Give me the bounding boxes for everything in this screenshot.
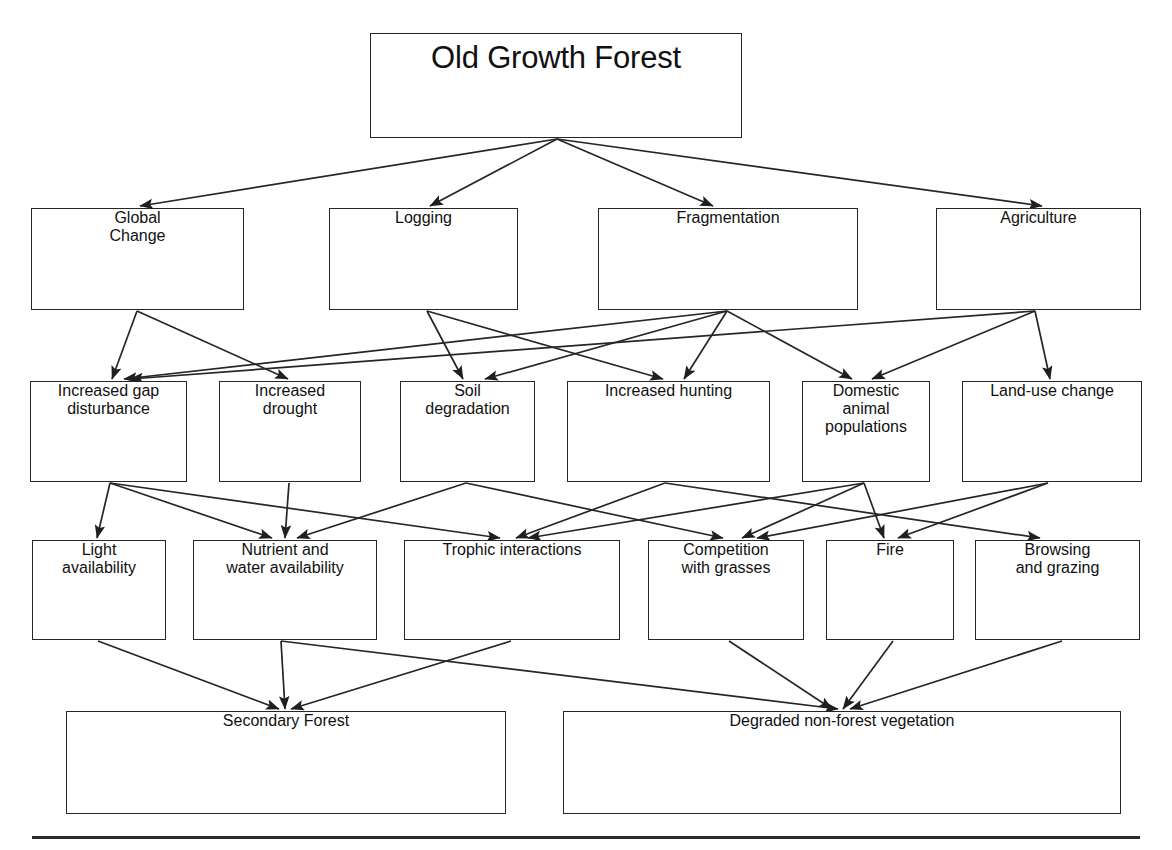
node-label-increased-drought: Increased drought [220, 382, 360, 418]
node-label-secondary-forest: Secondary Forest [67, 712, 505, 730]
node-label-increased-hunting: Increased hunting [568, 382, 769, 400]
edge-increased-drought-to-nutrient-water-availability [285, 483, 289, 538]
node-label-nutrient-water-availability: Nutrient and water availability [194, 541, 376, 577]
edge-global-change-to-increased-gap-disturbance [112, 311, 137, 379]
node-secondary-forest[interactable]: Secondary Forest [66, 711, 506, 814]
edge-old-growth-forest-to-logging [430, 139, 557, 206]
edge-fragmentation-to-soil-degradation [485, 311, 727, 379]
node-label-light-availability: Light availability [33, 541, 165, 577]
edge-old-growth-forest-to-global-change [140, 139, 557, 206]
node-browsing-and-grazing[interactable]: Browsing and grazing [975, 540, 1140, 640]
footer-rule-divider [32, 836, 1140, 839]
edge-soil-degradation-to-competition-with-grasses [466, 483, 723, 538]
node-global-change[interactable]: Global Change [31, 208, 244, 310]
node-label-old-growth-forest: Old Growth Forest [371, 34, 741, 76]
node-label-competition-with-grasses: Competition with grasses [649, 541, 803, 577]
edge-increased-hunting-to-browsing-and-grazing [665, 483, 1040, 538]
node-increased-hunting[interactable]: Increased hunting [567, 381, 770, 482]
node-fire[interactable]: Fire [826, 540, 954, 640]
edge-increased-gap-disturbance-to-trophic-interactions [110, 483, 500, 538]
edge-domestic-animal-populations-to-fire [864, 483, 884, 538]
edge-competition-with-grasses-to-degraded-non-forest-vegetation [729, 641, 832, 709]
edge-fragmentation-to-increased-hunting [684, 311, 727, 379]
edge-old-growth-forest-to-agriculture [557, 139, 1042, 206]
node-light-availability[interactable]: Light availability [32, 540, 166, 640]
edge-fragmentation-to-domestic-animal-populations [727, 311, 852, 379]
node-trophic-interactions[interactable]: Trophic interactions [404, 540, 620, 640]
node-label-soil-degradation: Soil degradation [401, 382, 534, 418]
node-old-growth-forest[interactable]: Old Growth Forest [370, 33, 742, 138]
node-label-trophic-interactions: Trophic interactions [405, 541, 619, 559]
diagram-canvas: Old Growth ForestGlobal ChangeLoggingFra… [0, 0, 1172, 850]
edge-fragmentation-to-increased-gap-disturbance [124, 311, 727, 379]
node-agriculture[interactable]: Agriculture [936, 208, 1141, 310]
edge-domestic-animal-populations-to-competition-with-grasses [742, 483, 864, 538]
node-domestic-animal-populations[interactable]: Domestic animal populations [802, 381, 930, 482]
node-label-fragmentation: Fragmentation [599, 209, 857, 227]
node-logging[interactable]: Logging [329, 208, 518, 310]
node-label-degraded-non-forest-vegetation: Degraded non-forest vegetation [564, 712, 1120, 730]
node-label-logging: Logging [330, 209, 517, 227]
node-label-domestic-animal-populations: Domestic animal populations [803, 382, 929, 436]
edge-domestic-animal-populations-to-trophic-interactions [528, 483, 864, 538]
node-label-land-use-change: Land-use change [963, 382, 1141, 400]
edge-nutrient-water-availability-to-secondary-forest [281, 641, 285, 709]
node-label-global-change: Global Change [32, 209, 243, 245]
node-label-browsing-and-grazing: Browsing and grazing [976, 541, 1139, 577]
node-soil-degradation[interactable]: Soil degradation [400, 381, 535, 482]
edge-nutrient-water-availability-to-degraded-non-forest-vegetation [281, 641, 838, 709]
edge-browsing-and-grazing-to-degraded-non-forest-vegetation [850, 641, 1062, 709]
edge-logging-to-increased-hunting [427, 311, 663, 379]
node-competition-with-grasses[interactable]: Competition with grasses [648, 540, 804, 640]
edge-trophic-interactions-to-secondary-forest [291, 641, 511, 709]
node-label-fire: Fire [827, 541, 953, 559]
node-label-agriculture: Agriculture [937, 209, 1140, 227]
node-land-use-change[interactable]: Land-use change [962, 381, 1142, 482]
node-degraded-non-forest-vegetation[interactable]: Degraded non-forest vegetation [563, 711, 1121, 814]
node-label-increased-gap-disturbance: Increased gap disturbance [31, 382, 186, 418]
edge-increased-hunting-to-trophic-interactions [516, 483, 665, 538]
edge-fire-to-degraded-non-forest-vegetation [843, 641, 893, 709]
edge-increased-gap-disturbance-to-nutrient-water-availability [110, 483, 272, 538]
edge-soil-degradation-to-nutrient-water-availability [297, 483, 466, 538]
edge-light-availability-to-secondary-forest [98, 641, 279, 709]
edge-agriculture-to-domestic-animal-populations [872, 311, 1035, 379]
node-increased-gap-disturbance[interactable]: Increased gap disturbance [30, 381, 187, 482]
edge-increased-gap-disturbance-to-light-availability [97, 483, 110, 538]
node-increased-drought[interactable]: Increased drought [219, 381, 361, 482]
edge-logging-to-soil-degradation [427, 311, 463, 379]
node-fragmentation[interactable]: Fragmentation [598, 208, 858, 310]
edge-old-growth-forest-to-fragmentation [557, 139, 713, 206]
edge-agriculture-to-land-use-change [1035, 311, 1050, 379]
edge-land-use-change-to-competition-with-grasses [757, 483, 1048, 538]
edge-agriculture-to-increased-gap-disturbance [130, 311, 1035, 379]
edge-land-use-change-to-fire [898, 483, 1048, 538]
edge-global-change-to-increased-drought [137, 311, 288, 379]
node-nutrient-water-availability[interactable]: Nutrient and water availability [193, 540, 377, 640]
